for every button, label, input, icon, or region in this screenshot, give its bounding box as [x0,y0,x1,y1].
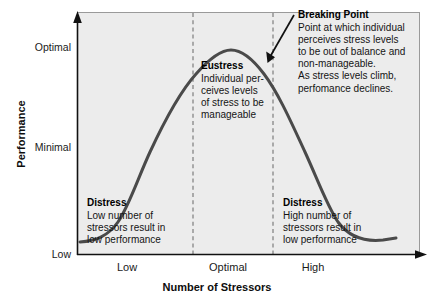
x-axis-title: Number of Stressors [0,281,434,293]
annotation-distress-low: Distress Low number of stressors result … [87,197,179,246]
y-tick-label-low: Low [5,248,71,260]
annotation-distress-high-body: High number of stressors result in low p… [283,210,381,247]
annotation-distress-low-title: Distress [87,197,179,210]
annotation-distress-high-title: Distress [283,197,381,210]
y-tick-label-optimal: Optimal [5,41,71,53]
x-tick-label-optimal: Optimal [209,261,247,273]
annotation-eustress-title: Eustress [201,60,273,73]
annotation-distress-high: Distress High number of stressors result… [283,197,381,246]
annotation-breaking-point-body: Point at which individual perceives stre… [298,22,432,95]
annotation-breaking-point: Breaking Point Point at which individual… [298,9,432,95]
x-tick-label-low: Low [117,261,137,273]
annotation-distress-low-body: Low number of stressors result in low pe… [87,210,179,247]
annotation-eustress-body: Individual per- ceives levels of stress … [201,73,273,122]
annotation-breaking-point-title: Breaking Point [298,9,432,22]
x-tick-label-high: High [302,261,325,273]
y-axis-title: Performance [15,74,27,194]
annotation-eustress: Eustress Individual per- ceives levels o… [201,60,273,121]
stress-performance-chart: Optimal Minimal Low Low Optimal High Num… [0,0,434,301]
